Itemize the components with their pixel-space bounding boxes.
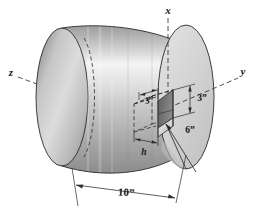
dim-length-ext-left [72,168,78,206]
axis-z-label: z [8,66,14,78]
dim-length-arrow-left [76,184,83,188]
axis-x-label: x [164,4,171,16]
dim-cutout-height-label: 3” [197,93,207,103]
cylinder-cutout-diagram: z [0,0,254,220]
axis-y-label: y [239,65,246,77]
dim-radius-label: 6” [185,125,195,135]
dim-cylinder-length-label: 10” [118,186,135,199]
cylinder-left-cap [36,28,88,166]
figure-container: z [0,0,254,220]
dim-depth-h-label: h [141,147,146,157]
dim-length-arrow-right [168,194,175,198]
